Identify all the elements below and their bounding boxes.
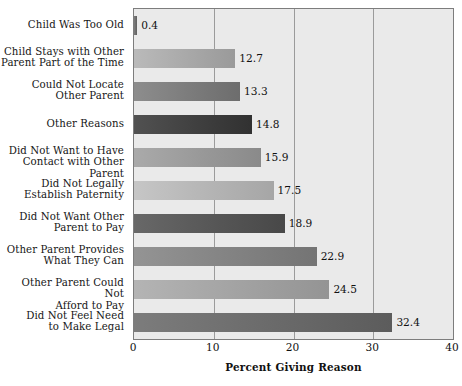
- bar-value-label: 0.4: [137, 16, 158, 35]
- category-label: Did Not Want Other Parent to Pay: [0, 211, 124, 234]
- category-label: Did Not Want to Have Contact with Other …: [0, 145, 124, 180]
- x-tick-label: 30: [366, 341, 379, 353]
- category-label: Child Was Too Old: [0, 19, 124, 31]
- category-label: Other Parent Provides What They Can: [0, 244, 124, 267]
- x-axis-tick-labels: 010203040: [133, 341, 454, 357]
- bar: [134, 82, 240, 101]
- bar: [134, 313, 392, 332]
- bar-value-label: 32.4: [392, 313, 420, 332]
- bar: [134, 49, 235, 68]
- category-label: Child Stays with Other Parent Part of th…: [0, 46, 124, 69]
- bar-value-label: 12.7: [235, 49, 263, 68]
- bar: [134, 280, 329, 299]
- x-tick-label: 10: [206, 341, 219, 353]
- category-label-column: Child Was Too OldChild Stays with Other …: [0, 8, 128, 338]
- horizontal-bar-chart: Child Was Too OldChild Stays with Other …: [0, 0, 462, 386]
- category-label: Other Reasons: [0, 118, 124, 130]
- bar: [134, 115, 252, 134]
- bar-value-label: 17.5: [274, 181, 302, 200]
- bar-value-label: 22.9: [317, 247, 345, 266]
- category-label: Did Not Legally Establish Paternity: [0, 178, 124, 201]
- x-tick-label: 20: [286, 341, 299, 353]
- bar-value-label: 24.5: [329, 280, 357, 299]
- bar: [134, 148, 261, 167]
- category-label: Did Not Feel Need to Make Legal: [0, 310, 124, 333]
- category-label: Could Not Locate Other Parent: [0, 79, 124, 102]
- bars-layer: 0.412.713.314.815.917.518.922.924.532.4: [134, 9, 453, 339]
- x-tick-label: 0: [130, 341, 137, 353]
- bar: [134, 247, 317, 266]
- bar-value-label: 15.9: [261, 148, 289, 167]
- category-label: Other Parent Could Not Afford to Pay: [0, 277, 124, 312]
- bar: [134, 214, 285, 233]
- bar-value-label: 14.8: [252, 115, 280, 134]
- bar-value-label: 13.3: [240, 82, 268, 101]
- bar-value-label: 18.9: [285, 214, 313, 233]
- plot-area: 0.412.713.314.815.917.518.922.924.532.4: [133, 8, 454, 340]
- x-axis-title: Percent Giving Reason: [133, 361, 454, 373]
- bar: [134, 181, 274, 200]
- x-tick-label: 40: [445, 341, 458, 353]
